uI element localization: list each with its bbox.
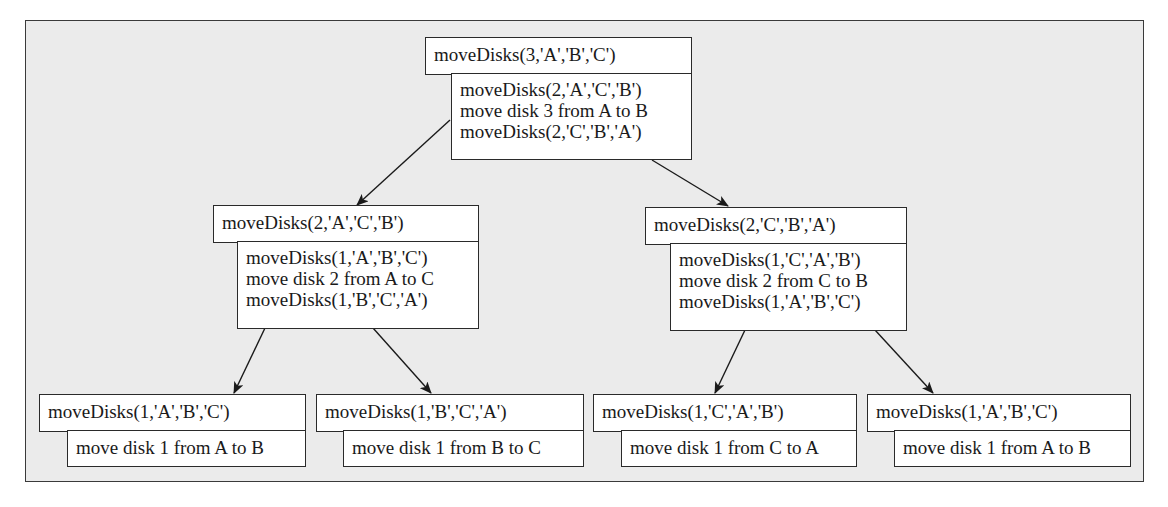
node-mid-right-steps: moveDisks(1,'C','A','B') move disk 2 fro… [670,243,907,331]
node-leaf-2-steps: move disk 1 from B to C [343,430,584,467]
edge-root-to-mid-right [652,160,728,206]
edge-root-to-mid-left [357,120,450,205]
node-leaf-1-steps: move disk 1 from A to B [67,430,306,467]
step-line: move disk 2 from A to C [246,268,478,289]
node-leaf-2-call: moveDisks(1,'B','C','A') [316,394,584,432]
step-line: move disk 3 from A to B [460,100,691,121]
node-mid-left-call: moveDisks(2,'A','C','B') [213,205,479,243]
step-line: moveDisks(2,'C','B','A') [460,121,691,142]
step-line: moveDisks(1,'A','B','C') [679,291,906,312]
node-leaf-3-call: moveDisks(1,'C','A','B') [593,394,857,432]
node-leaf-4-call: moveDisks(1,'A','B','C') [867,394,1131,432]
node-root-steps: moveDisks(2,'A','C','B') move disk 3 fro… [451,73,692,160]
node-mid-right-call: moveDisks(2,'C','B','A') [645,207,907,245]
step-line: move disk 1 from C to A [630,437,856,458]
edge-mid-left-to-leaf-1 [234,328,265,393]
node-mid-left-steps: moveDisks(1,'A','B','C') move disk 2 fro… [237,241,479,329]
node-leaf-3-steps: move disk 1 from C to A [621,430,857,467]
step-line: move disk 1 from A to B [76,437,305,458]
node-root-call: moveDisks(3,'A','B','C') [425,37,692,75]
node-leaf-4-steps: move disk 1 from A to B [894,430,1131,467]
edge-mid-left-to-leaf-2 [373,328,431,393]
node-leaf-1-call: moveDisks(1,'A','B','C') [39,394,306,432]
step-line: move disk 2 from C to B [679,270,906,291]
step-line: moveDisks(2,'A','C','B') [460,79,691,100]
edge-mid-right-to-leaf-4 [875,330,933,393]
step-line: moveDisks(1,'B','C','A') [246,289,478,310]
step-line: move disk 1 from B to C [352,437,583,458]
edge-mid-right-to-leaf-3 [715,330,745,393]
step-line: moveDisks(1,'C','A','B') [679,249,906,270]
step-line: move disk 1 from A to B [903,437,1130,458]
step-line: moveDisks(1,'A','B','C') [246,247,478,268]
